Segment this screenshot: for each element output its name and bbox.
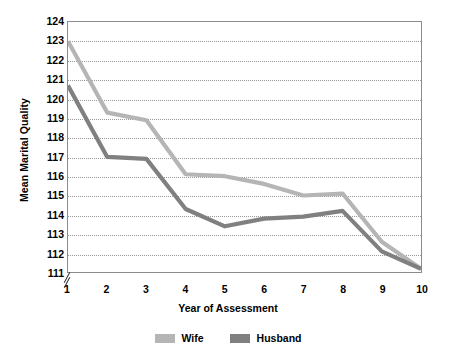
- y-tick-label: 120: [46, 93, 64, 105]
- x-tick-label: 1: [64, 283, 70, 295]
- y-tick-label: 114: [47, 209, 64, 221]
- y-axis-tick-labels: 1111121131141151161171181191201211221231…: [30, 0, 64, 300]
- legend-item-wife[interactable]: Wife: [155, 332, 204, 344]
- y-tick-label: 116: [47, 170, 64, 182]
- x-tick-label: 6: [261, 283, 267, 295]
- y-tick-label: 112: [47, 248, 64, 260]
- legend-label: Wife: [182, 332, 204, 344]
- x-tick-label: 7: [301, 283, 307, 295]
- legend-swatch-icon: [155, 334, 175, 343]
- y-tick-label: 117: [47, 151, 64, 163]
- x-tick-label: 5: [222, 283, 228, 295]
- legend-item-husband[interactable]: Husband: [230, 332, 302, 344]
- y-tick-label: 123: [46, 34, 64, 46]
- line-chart: Mean Marital Quality 1111121131141151161…: [0, 0, 456, 361]
- x-tick-label: 2: [104, 283, 110, 295]
- y-tick-label: 124: [46, 15, 64, 27]
- y-axis-title-text: Mean Marital Quality: [18, 98, 30, 202]
- y-tick-label: 122: [46, 54, 64, 66]
- x-tick-label: 8: [340, 283, 346, 295]
- y-tick-label: 115: [47, 189, 64, 201]
- y-tick-label: 119: [47, 112, 64, 124]
- y-tick-label: 118: [47, 131, 64, 143]
- series-line-husband: [68, 86, 421, 269]
- x-tick-label: 10: [416, 283, 428, 295]
- plot-area: [67, 21, 422, 273]
- x-tick-label: 9: [380, 283, 386, 295]
- y-tick-label: 113: [47, 228, 64, 240]
- y-tick-label: 121: [46, 73, 64, 85]
- series-lines: [68, 22, 421, 273]
- x-axis-tick-labels: 12345678910: [67, 283, 422, 299]
- x-axis-title: Year of Assessment: [0, 302, 456, 314]
- x-tick-label: 4: [182, 283, 188, 295]
- legend-swatch-icon: [230, 334, 250, 343]
- x-tick-label: 3: [143, 283, 149, 295]
- legend: WifeHusband: [0, 332, 456, 344]
- legend-label: Husband: [257, 332, 302, 344]
